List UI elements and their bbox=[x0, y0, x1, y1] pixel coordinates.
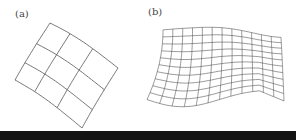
bottom-border-bar bbox=[0, 131, 296, 140]
grid-a-curved-3x3 bbox=[15, 23, 118, 128]
grid-b-wavy-mesh bbox=[147, 27, 284, 106]
mesh-diagram bbox=[0, 0, 296, 140]
